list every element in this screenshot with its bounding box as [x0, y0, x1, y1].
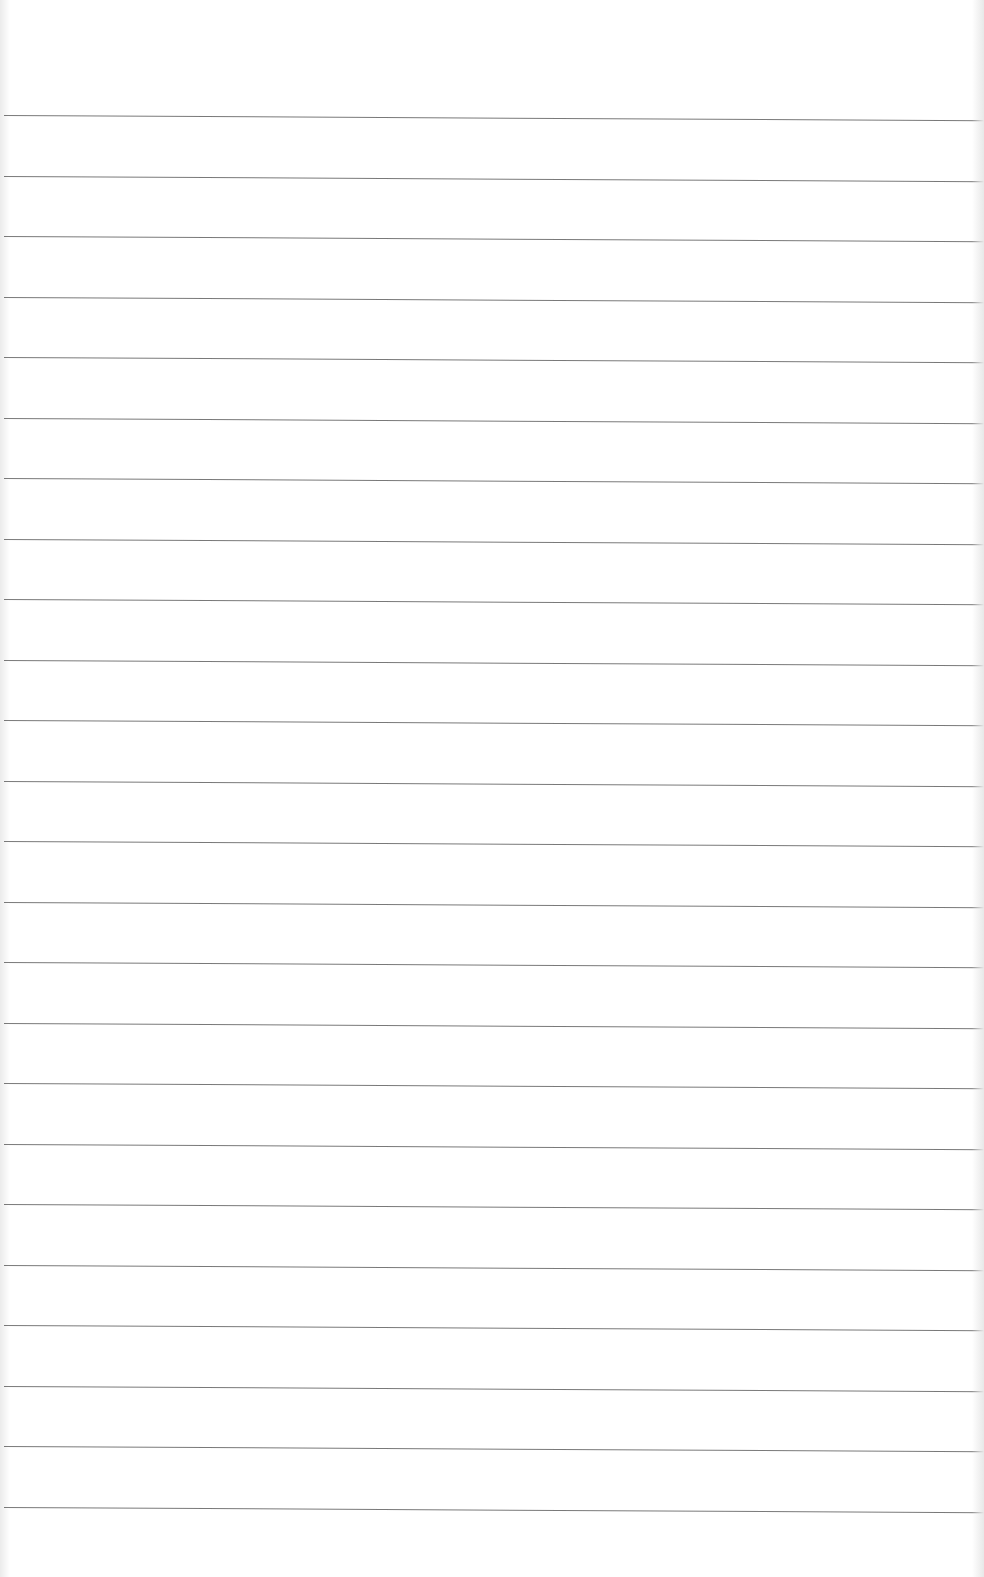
ruled-line — [4, 1386, 984, 1392]
lined-paper-sheet — [0, 0, 984, 1577]
ruled-line — [4, 418, 984, 424]
ruled-line — [4, 1507, 984, 1513]
ruled-line — [4, 962, 984, 968]
ruled-line — [4, 660, 984, 666]
ruled-line — [4, 1083, 984, 1089]
ruled-line — [4, 1325, 984, 1331]
ruled-line — [4, 1265, 984, 1271]
ruled-line — [4, 599, 984, 605]
ruled-line — [4, 539, 984, 545]
ruled-line — [4, 1023, 984, 1029]
ruled-line — [4, 902, 984, 908]
ruled-line — [4, 781, 984, 787]
ruled-line — [4, 720, 984, 726]
ruled-line — [4, 478, 984, 484]
ruled-line — [4, 297, 984, 303]
ruled-line — [4, 236, 984, 242]
ruled-line — [4, 357, 984, 363]
ruled-line — [4, 841, 984, 847]
ruled-line — [4, 1204, 984, 1210]
ruled-line — [4, 176, 984, 182]
ruled-line — [4, 115, 984, 121]
ruled-line — [4, 1144, 984, 1150]
ruled-line — [4, 1446, 984, 1452]
